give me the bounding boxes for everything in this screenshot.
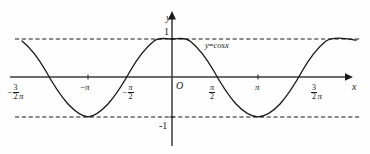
fraction-numerator: 3: [311, 84, 317, 92]
x-axis-label: x: [352, 82, 356, 92]
y-axis-label: y: [166, 13, 170, 23]
tick-sign: −: [7, 88, 12, 97]
fraction-denominator: 2: [209, 92, 215, 101]
x-tick-label-pos-pi-2: π 2: [209, 84, 215, 102]
x-tick-label-neg-3pi-2: − 3 2 π: [7, 84, 24, 102]
x-tick-label-neg-pi: −π: [80, 82, 90, 92]
fraction: π 2: [209, 84, 215, 102]
cosine-graph-figure: y x O 1 -1 y=cosx − 3 2 π −π − π 2 π 2 π: [0, 0, 370, 154]
origin-label: O: [176, 81, 183, 91]
plot-canvas: [0, 0, 370, 154]
fraction-numerator: 3: [13, 84, 19, 92]
x-tick-label-pos-pi: π: [255, 82, 260, 92]
y-min-label: -1: [159, 121, 167, 131]
fraction-denominator: 2: [13, 92, 19, 101]
tick-sign: −: [122, 88, 127, 97]
y-max-label: 1: [164, 27, 169, 37]
fraction: 3 2: [13, 84, 19, 102]
x-tick-label-neg-pi-2: − π 2: [122, 84, 134, 102]
fraction-denominator: 2: [311, 92, 317, 101]
x-tick-label-pos-3pi-2: 3 2 π: [311, 84, 322, 102]
fraction: 3 2: [311, 84, 317, 102]
pi-symbol: π: [255, 82, 260, 92]
curve-equation-label: y=cosx: [205, 41, 229, 50]
equation-rhs: cosx: [214, 40, 229, 50]
pi-symbol: π: [318, 92, 323, 102]
fraction-numerator: π: [128, 84, 134, 92]
pi-symbol: π: [19, 92, 24, 102]
pi-symbol: π: [85, 82, 90, 92]
fraction: π 2: [128, 84, 134, 102]
fraction-denominator: 2: [128, 92, 134, 101]
fraction-numerator: π: [209, 84, 215, 92]
